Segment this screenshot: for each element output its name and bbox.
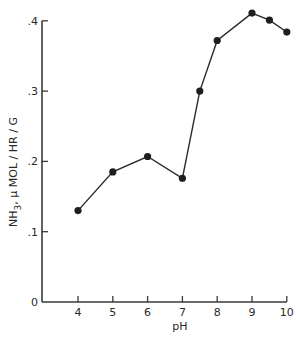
x-tick-label: 9 — [249, 306, 256, 319]
data-point — [248, 9, 255, 16]
x-axis-title: pH — [172, 320, 187, 333]
y-tick-label: 0 — [31, 296, 38, 309]
y-tick-label: .4 — [28, 15, 39, 28]
data-point — [283, 28, 290, 35]
y-tick-label: .2 — [28, 155, 39, 168]
x-tick-label: 8 — [214, 306, 221, 319]
plot-area — [74, 9, 290, 214]
y-axis: 0.1.2.3.4 — [28, 15, 49, 309]
data-point — [74, 207, 81, 214]
data-point — [266, 16, 273, 23]
x-tick-label: 10 — [280, 306, 294, 319]
data-point — [196, 88, 203, 95]
x-tick-label: 5 — [109, 306, 116, 319]
data-point — [214, 37, 221, 44]
y-tick-label: .1 — [28, 226, 39, 239]
x-tick-label: 7 — [179, 306, 186, 319]
data-point — [179, 175, 186, 182]
data-point — [144, 153, 151, 160]
x-tick-label: 4 — [75, 306, 82, 319]
chart: 0.1.2.3.4 45678910 pH NH3, μ MOL / HR / … — [0, 0, 296, 339]
x-axis: 45678910 — [42, 296, 294, 319]
y-tick-label: .3 — [28, 85, 39, 98]
y-axis-title: NH3, μ MOL / HR / G — [7, 117, 23, 227]
x-tick-label: 6 — [144, 306, 151, 319]
data-point — [109, 168, 116, 175]
